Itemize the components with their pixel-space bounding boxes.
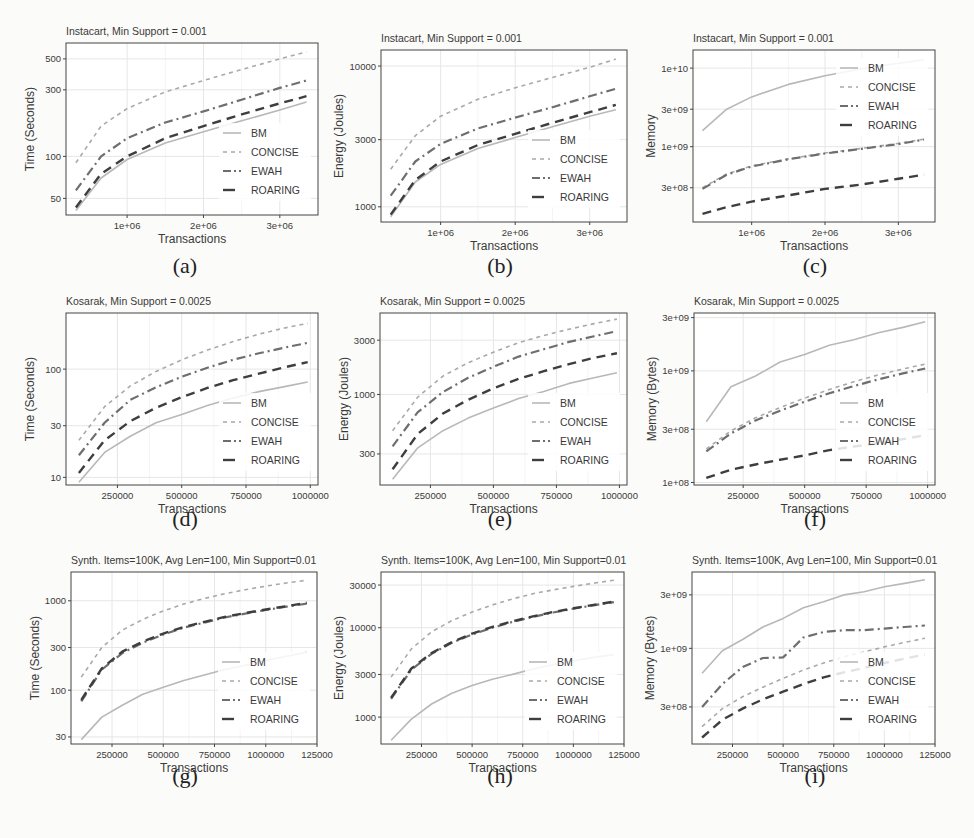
y-axis-label: Time (Seconds) — [28, 616, 42, 700]
x-tick-label: 3e+06 — [885, 227, 912, 238]
x-tick-label: 1e+06 — [427, 227, 454, 238]
panel-caption-d: (d) — [155, 506, 215, 532]
x-axis: 2500005000007500001000000125000 — [406, 744, 640, 760]
x-axis: 1e+062e+063e+06 — [114, 215, 293, 231]
chart-panel-i: Synth. Items=100K, Avg Len=100, Min Supp… — [650, 550, 974, 830]
y-axis-label: Memory (Bytes) — [643, 616, 657, 701]
legend-label-roaring: ROARING — [557, 713, 606, 725]
y-tick-label: 10000 — [350, 622, 376, 633]
y-axis: 100030001000030000 — [350, 580, 381, 723]
y-axis-label: Time (Seconds) — [23, 87, 37, 171]
x-tick-label: 500000 — [767, 749, 799, 760]
chart-panel-a: Instacart, Min Support = 0.0015010030050… — [0, 0, 325, 280]
y-axis: 3e+081e+093e+09 — [660, 589, 692, 712]
legend-label-roaring: ROARING — [560, 191, 609, 203]
y-tick-label: 500 — [45, 53, 61, 64]
legend-label-ewah: EWAH — [250, 694, 281, 706]
chart-panel-e: Kosarak, Min Support = 0.002530010003000… — [325, 280, 650, 560]
x-tick-label: 1000000 — [909, 490, 946, 501]
legend-label-bm: BM — [868, 397, 884, 409]
x-tick-label: 500000 — [789, 490, 821, 501]
y-axis-label: Energy (Joules) — [332, 94, 346, 178]
y-tick-label: 1000 — [355, 712, 376, 723]
x-axis: 2500005000007500001000000125000 — [96, 744, 333, 760]
panel-caption-f: (f) — [785, 506, 845, 532]
chart-title: Kosarak, Min Support = 0.0025 — [694, 295, 839, 307]
legend-label-concise: CONCISE — [868, 81, 916, 93]
y-axis: 1000300010000 — [350, 61, 381, 213]
chart-panel-c: Instacart, Min Support = 0.0013e+081e+09… — [650, 0, 974, 280]
legend-label-ewah: EWAH — [868, 694, 899, 706]
y-axis-label: Time (Seconds) — [23, 357, 37, 441]
panel-caption-b: (b) — [470, 253, 530, 279]
y-tick-label: 10 — [50, 472, 61, 483]
x-tick-label: 1000000 — [866, 749, 903, 760]
y-axis-label: Memory — [644, 114, 658, 157]
legend: BMCONCISEEWAHROARING — [219, 123, 311, 201]
x-tick-label: 500000 — [147, 749, 179, 760]
legend-label-concise: CONCISE — [557, 675, 605, 687]
panel-caption-g: (g) — [155, 763, 215, 789]
x-axis: 1e+062e+063e+06 — [427, 222, 603, 238]
y-axis: 30010003000 — [354, 335, 380, 460]
y-tick-label: 100 — [45, 364, 61, 375]
y-tick-label: 300 — [50, 642, 66, 653]
legend-label-ewah: EWAH — [251, 165, 282, 177]
panel-caption-e: (e) — [470, 506, 530, 532]
legend-label-concise: CONCISE — [560, 153, 608, 165]
x-tick-label: 1000000 — [555, 749, 592, 760]
chart-title: Kosarak, Min Support = 0.0025 — [380, 295, 525, 307]
y-tick-label: 1e+08 — [662, 477, 689, 488]
panel-caption-h: (h) — [470, 763, 530, 789]
chart-title: Instacart, Min Support = 0.001 — [66, 25, 207, 37]
y-tick-label: 100 — [50, 685, 66, 696]
y-tick-label: 100 — [45, 151, 61, 162]
y-tick-label: 3e+08 — [660, 701, 687, 712]
legend: BMCONCISEEWAHROARING — [218, 652, 310, 730]
x-tick-label: 750000 — [199, 749, 231, 760]
y-tick-label: 3e+09 — [660, 589, 687, 600]
x-axis-label: Transactions — [470, 239, 538, 253]
chart-title: Synth. Items=100K, Avg Len=100, Min Supp… — [71, 554, 316, 566]
x-tick-label: 500000 — [456, 749, 488, 760]
chart-panel-h: Synth. Items=100K, Avg Len=100, Min Supp… — [325, 550, 650, 830]
x-tick-label: 1000000 — [247, 749, 284, 760]
chart-title: Instacart, Min Support = 0.001 — [381, 32, 522, 44]
y-tick-label: 1e+09 — [660, 643, 687, 654]
x-tick-label: 3e+06 — [266, 220, 293, 231]
legend-label-bm: BM — [557, 656, 573, 668]
legend-label-bm: BM — [251, 127, 267, 139]
y-tick-label: 30000 — [350, 580, 376, 591]
legend: BMCONCISEEWAHROARING — [219, 393, 311, 471]
chart-panel-f: Kosarak, Min Support = 0.00251e+083e+081… — [650, 280, 974, 560]
x-axis: 2500005000007500001000000 — [415, 485, 638, 501]
legend-label-concise: CONCISE — [250, 675, 298, 687]
y-axis-label: Energy (Joules) — [337, 357, 351, 441]
legend: BMCONCISEEWAHROARING — [525, 652, 617, 730]
y-tick-label: 1000 — [45, 595, 66, 606]
chart-panel-g: Synth. Items=100K, Avg Len=100, Min Supp… — [0, 550, 325, 830]
x-tick-label: 1e+06 — [114, 220, 141, 231]
y-tick-label: 3000 — [354, 335, 375, 346]
legend-label-ewah: EWAH — [560, 172, 591, 184]
chart-title: Kosarak, Min Support = 0.0025 — [66, 295, 211, 307]
legend-label-ewah: EWAH — [868, 100, 899, 112]
y-tick-label: 1e+10 — [661, 63, 688, 74]
y-tick-label: 3000 — [355, 669, 376, 680]
x-tick-label: 1e+06 — [738, 227, 765, 238]
y-axis-label: Energy (Joules) — [332, 616, 346, 700]
y-axis: 301003001000 — [45, 595, 71, 742]
chart-title: Synth. Items=100K, Avg Len=100, Min Supp… — [381, 554, 626, 566]
y-tick-label: 1000 — [354, 389, 375, 400]
y-axis: 1030100 — [45, 364, 66, 483]
x-tick-label: 125000 — [608, 749, 640, 760]
y-tick-label: 1e+09 — [662, 365, 689, 376]
y-tick-label: 3e+09 — [661, 104, 688, 115]
x-tick-label: 3e+06 — [576, 227, 603, 238]
y-tick-label: 3000 — [355, 134, 376, 145]
x-axis-label: Transactions — [780, 239, 848, 253]
x-axis-label: Transactions — [158, 232, 226, 246]
legend-label-roaring: ROARING — [868, 119, 917, 131]
x-tick-label: 750000 — [230, 490, 262, 501]
legend-label-ewah: EWAH — [560, 435, 591, 447]
